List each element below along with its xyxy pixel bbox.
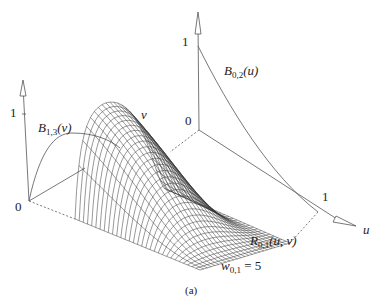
u-axis-name-label: u [363, 223, 370, 236]
r01-label: R0,1(u, v) [250, 234, 297, 250]
left-origin-connector [29, 168, 85, 201]
u-axis-arrow-icon [333, 216, 356, 226]
b02-arg: (u) [243, 63, 258, 78]
weight-label: w0,1 = 5 [221, 259, 261, 275]
u-axis [199, 130, 340, 221]
u-axis-one-label: 1 [322, 190, 329, 203]
weight-main: w [221, 258, 230, 273]
far-dashed-line [170, 130, 199, 152]
left-z-axis [23, 86, 29, 201]
left-axis-zero-label: 0 [15, 200, 22, 213]
b02-sub: 0,2 [232, 70, 243, 80]
left-axis-one-label: 1 [10, 106, 17, 119]
right-axis-one-label: 1 [182, 35, 189, 48]
b13-sub: 1,3 [46, 127, 57, 137]
left-z-axis-arrow-icon [20, 80, 26, 96]
rational-bspline-surface-figure [0, 0, 378, 302]
b02-main: B [224, 63, 232, 78]
v-axis-name-label: v [141, 108, 147, 121]
right-z-axis [198, 24, 199, 130]
weight-sub: 0,1 [230, 265, 241, 275]
weight-value: = 5 [241, 258, 261, 273]
b02-label: B0,2(u) [224, 64, 258, 80]
b13-arg: (v) [57, 120, 71, 135]
r01-main: R [250, 233, 258, 248]
right-z-axis-arrow-icon [195, 12, 201, 34]
b13-main: B [38, 120, 46, 135]
r01-arg: (u, v) [269, 233, 296, 248]
r01-sub: 0,1 [258, 240, 269, 250]
right-axis-zero-label: 0 [185, 114, 192, 127]
figure-caption: (a) [185, 285, 197, 296]
b13-label: B1,3(v) [38, 121, 72, 137]
left-dashed-baseline [29, 201, 75, 219]
